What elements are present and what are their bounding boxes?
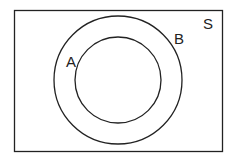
universe-label: S [203, 15, 213, 32]
set-b-label: B [174, 30, 184, 47]
venn-diagram: S B A [0, 0, 231, 160]
set-b-circle [54, 16, 182, 144]
set-a-circle [75, 37, 161, 123]
universe-rectangle [15, 11, 223, 152]
set-a-label: A [66, 53, 76, 70]
